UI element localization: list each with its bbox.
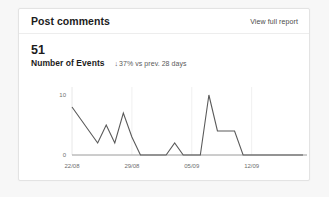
- y-tick-label-10: 10: [59, 92, 66, 98]
- metric-summary: 51 Number of Events ↓37% vs prev. 28 day…: [19, 34, 309, 68]
- events-line-chart: 010 22/0829/0805/0912/09: [19, 83, 309, 181]
- metric-label-row: Number of Events ↓37% vs prev. 28 days: [31, 58, 309, 68]
- x-tick-label-29-08: 29/08: [124, 163, 140, 169]
- view-full-report-link[interactable]: View full report: [250, 18, 298, 25]
- y-tick-label-0: 0: [63, 152, 67, 158]
- x-tick-label-05-09: 05/09: [184, 163, 200, 169]
- x-tick-label-22-08: 22/08: [64, 163, 80, 169]
- x-tick-labels: 22/0829/0805/0912/09: [64, 163, 259, 169]
- grid-lines: [72, 87, 252, 155]
- card-header: Post comments View full report: [19, 9, 309, 34]
- chart-canvas: 010 22/0829/0805/0912/09: [19, 83, 309, 181]
- post-comments-card: Post comments View full report 51 Number…: [18, 8, 310, 181]
- x-tick-label-12-09: 12/09: [244, 163, 260, 169]
- arrow-down-icon: ↓: [115, 60, 119, 67]
- metric-value: 51: [31, 43, 309, 57]
- y-tick-labels: 010: [59, 92, 66, 158]
- metric-delta: ↓37% vs prev. 28 days: [115, 60, 187, 67]
- metric-delta-text: 37% vs prev. 28 days: [119, 60, 186, 67]
- metric-label: Number of Events: [31, 58, 105, 68]
- page-title: Post comments: [31, 15, 110, 27]
- series-line: [72, 95, 303, 155]
